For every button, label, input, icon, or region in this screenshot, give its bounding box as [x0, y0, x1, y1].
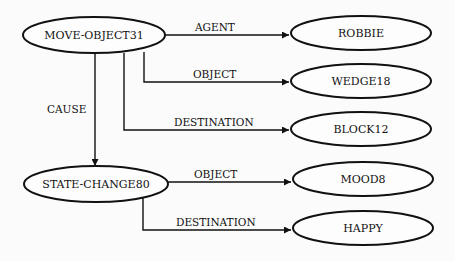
node-move-object31: MOVE-OBJECT31: [23, 17, 165, 53]
node-block12: BLOCK12: [291, 112, 431, 146]
edge-object-2: OBJECT: [167, 168, 291, 182]
node-mood8: MOOD8: [293, 162, 433, 196]
node-label-wedge18: WEDGE18: [332, 75, 391, 88]
node-wedge18: WEDGE18: [291, 64, 431, 98]
edge-label-destination-1: DESTINATION: [174, 116, 254, 128]
node-label-move-object31: MOVE-OBJECT31: [44, 29, 143, 42]
edge-object-1: OBJECT: [144, 52, 289, 82]
node-label-happy: HAPPY: [343, 222, 383, 235]
edge-label-cause: CAUSE: [47, 103, 86, 115]
edge-label-object-2: OBJECT: [194, 168, 237, 180]
edge-destination-2: DESTINATION: [143, 197, 291, 230]
edge-destination-1: DESTINATION: [124, 53, 289, 130]
node-label-block12: BLOCK12: [333, 123, 388, 136]
edge-agent: AGENT: [165, 21, 289, 35]
node-label-robbie: ROBBIE: [338, 27, 384, 40]
node-label-mood8: MOOD8: [340, 173, 385, 186]
edge-label-object-1: OBJECT: [193, 68, 236, 80]
node-happy: HAPPY: [293, 211, 433, 245]
node-robbie: ROBBIE: [291, 16, 431, 50]
edge-label-destination-2: DESTINATION: [176, 216, 256, 228]
edge-cause: CAUSE: [47, 53, 95, 166]
edge-label-agent: AGENT: [194, 21, 235, 33]
semantic-network-diagram: AGENT OBJECT DESTINATION CAUSE OBJECT DE…: [0, 0, 455, 261]
node-state-change80: STATE-CHANGE80: [24, 166, 168, 202]
node-label-state-change80: STATE-CHANGE80: [42, 178, 149, 191]
